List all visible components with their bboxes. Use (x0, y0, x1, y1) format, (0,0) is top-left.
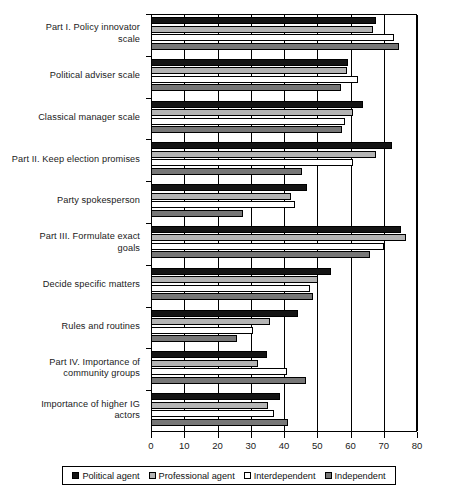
x-tick (151, 432, 152, 438)
bar-political-agent (151, 310, 298, 317)
bar-interdependent (151, 118, 345, 125)
y-tick (146, 14, 152, 15)
y-axis-label-line: Party spokesperson (0, 195, 140, 207)
bar-group (151, 181, 417, 223)
bar-group (151, 348, 417, 390)
bar-professional-agent (151, 67, 347, 74)
y-tick (146, 390, 152, 391)
chart-screenshot: Part I. Policy innovatorscalePolitical a… (0, 0, 458, 498)
x-tick-label: 70 (369, 440, 399, 451)
bar-political-agent (151, 226, 401, 233)
bar-groups (151, 14, 417, 432)
bar-group (151, 139, 417, 181)
x-tick-label: 0 (136, 440, 166, 451)
bar-independent (151, 43, 399, 50)
bar-political-agent (151, 101, 363, 108)
bar-political-agent (151, 142, 392, 149)
bar-interdependent (151, 285, 310, 292)
y-axis-label: Political adviser scale (0, 70, 140, 82)
bar-interdependent (151, 327, 253, 334)
y-axis-label-line: goals (0, 243, 140, 255)
bar-professional-agent (151, 109, 353, 116)
bar-political-agent (151, 351, 267, 358)
legend-item: Political agent (72, 471, 139, 481)
bar-interdependent (151, 76, 358, 83)
bar-independent (151, 126, 342, 133)
legend-item: Interdependent (244, 471, 316, 481)
bar-interdependent (151, 410, 274, 417)
gridline-80 (417, 15, 418, 431)
legend-swatch-icon (244, 472, 251, 479)
x-tick-label: 10 (169, 440, 199, 451)
y-axis-label: Part I. Policy innovatorscale (0, 22, 140, 45)
y-axis-label-line: community groups (0, 368, 140, 380)
x-tick-label: 30 (236, 440, 266, 451)
y-axis-label-line: Decide specific matters (0, 279, 140, 291)
legend-label: Professional agent (159, 471, 235, 481)
bar-political-agent (151, 59, 348, 66)
legend-label: Political agent (82, 471, 139, 481)
y-tick (146, 265, 152, 266)
y-axis-label-line: actors (0, 410, 140, 422)
bar-interdependent (151, 201, 295, 208)
x-tick (417, 432, 418, 438)
y-axis-label: Part IV. Importance ofcommunity groups (0, 357, 140, 380)
x-tick (384, 432, 385, 438)
y-tick (146, 56, 152, 57)
bar-professional-agent (151, 234, 406, 241)
x-tick-label: 60 (336, 440, 366, 451)
bar-interdependent (151, 34, 394, 41)
x-tick (218, 432, 219, 438)
legend-swatch-icon (325, 472, 332, 479)
bar-independent (151, 168, 302, 175)
x-axis: 01020304050607080 (151, 432, 417, 458)
y-axis-label-line: scale (0, 34, 140, 46)
y-tick (146, 181, 152, 182)
x-tick (317, 432, 318, 438)
legend-item: Professional agent (149, 471, 235, 481)
bar-professional-agent (151, 26, 373, 33)
y-axis-label-line: Rules and routines (0, 321, 140, 333)
bar-professional-agent (151, 402, 268, 409)
x-tick-label: 50 (302, 440, 332, 451)
y-tick (146, 348, 152, 349)
y-tick (146, 223, 152, 224)
bar-group (151, 265, 417, 307)
bar-interdependent (151, 368, 287, 375)
bar-independent (151, 293, 313, 300)
bar-professional-agent (151, 276, 318, 283)
y-axis-labels: Part I. Policy innovatorscalePolitical a… (0, 14, 146, 432)
y-axis-label-line: Part IV. Importance of (0, 357, 140, 369)
x-tick (251, 432, 252, 438)
y-axis-label: Classical manager scale (0, 112, 140, 124)
y-axis-label-line: Part II. Keep election promises (0, 154, 140, 166)
bar-independent (151, 419, 288, 426)
bar-professional-agent (151, 151, 376, 158)
bar-independent (151, 335, 237, 342)
legend-swatch-icon (149, 472, 156, 479)
y-tick (146, 98, 152, 99)
x-tick-label: 80 (402, 440, 432, 451)
y-axis-label-line: Importance of higher IG (0, 399, 140, 411)
bar-group (151, 56, 417, 98)
y-axis-label: Part III. Formulate exactgoals (0, 231, 140, 254)
bar-group (151, 98, 417, 140)
y-axis-label-line: Classical manager scale (0, 112, 140, 124)
bar-political-agent (151, 393, 280, 400)
legend-label: Independent (335, 471, 386, 481)
x-tick (184, 432, 185, 438)
bar-professional-agent (151, 193, 291, 200)
y-tick (146, 307, 152, 308)
y-axis-label-line: Part III. Formulate exact (0, 231, 140, 243)
legend-swatch-icon (72, 472, 79, 479)
bar-group (151, 14, 417, 56)
bar-professional-agent (151, 360, 258, 367)
y-axis-label: Rules and routines (0, 321, 140, 333)
y-axis-label: Decide specific matters (0, 279, 140, 291)
x-tick-label: 20 (203, 440, 233, 451)
y-axis-label: Importance of higher IGactors (0, 399, 140, 422)
bar-independent (151, 377, 306, 384)
y-tick (146, 139, 152, 140)
legend-label: Interdependent (254, 471, 316, 481)
bar-political-agent (151, 184, 307, 191)
